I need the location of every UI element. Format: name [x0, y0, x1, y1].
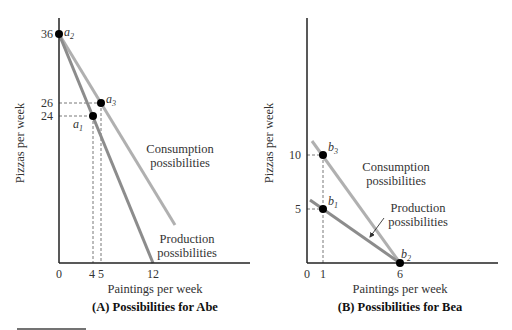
x-tick-5: 5 — [98, 267, 104, 281]
production-arrow-b — [370, 218, 384, 237]
consumption-label-b-line1: Consumption — [362, 160, 430, 174]
consumption-label-b-line2: possibilities — [366, 174, 426, 188]
y-tick-24: 24 — [41, 109, 53, 123]
x-tick-4: 4 — [89, 267, 95, 281]
y-axis-label-b: Pizzas per week — [262, 102, 276, 183]
label-a2: a2 — [64, 25, 74, 41]
consumption-label-a-line1: Consumption — [146, 142, 214, 156]
consumption-label-a-line2: possibilities — [150, 156, 210, 170]
label-b2: b2 — [401, 247, 411, 263]
x-tick-12: 12 — [147, 267, 159, 281]
point-a3 — [97, 99, 105, 107]
y-tick-10: 10 — [289, 148, 301, 162]
x-tick-0: 0 — [56, 267, 62, 281]
y-tick-36: 36 — [41, 27, 53, 41]
production-label-b-line2: possibilities — [388, 215, 448, 229]
label-a3: a3 — [106, 92, 116, 108]
y-tick-26: 26 — [41, 96, 53, 110]
y-axis-label-a: Pizzas per week — [13, 102, 27, 183]
point-a2 — [55, 30, 63, 38]
production-label-a-line1: Production — [160, 232, 216, 246]
production-label-b-line1: Production — [391, 201, 447, 215]
caption-a: (A) Possibilities for Abe — [92, 300, 218, 314]
panel-b-bea: b3 b1 b2 10 5 0 1 6 Consumption possibil… — [262, 18, 498, 314]
production-label-a-line2: possibilities — [157, 246, 217, 260]
production-line-a — [59, 34, 153, 263]
x-tick-6-b: 6 — [397, 267, 403, 281]
label-b3: b3 — [328, 140, 338, 156]
x-axis-label-b: Paintings per week — [352, 282, 448, 296]
point-b3 — [319, 151, 327, 159]
point-b1 — [319, 205, 327, 213]
label-a1: a1 — [73, 117, 83, 133]
figure: a2 a3 a1 36 26 24 0 4 5 12 Consumption p… — [0, 0, 512, 330]
panel-a-abe: a2 a3 a1 36 26 24 0 4 5 12 Consumption p… — [13, 18, 250, 314]
point-a1 — [89, 112, 97, 120]
label-b1: b1 — [328, 194, 338, 210]
y-tick-5: 5 — [295, 202, 301, 216]
x-axis-label-a: Paintings per week — [107, 282, 203, 296]
x-tick-1-b: 1 — [320, 267, 326, 281]
caption-b: (B) Possibilities for Bea — [338, 300, 463, 314]
x-tick-0-b: 0 — [304, 267, 310, 281]
